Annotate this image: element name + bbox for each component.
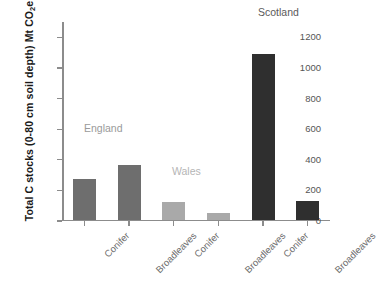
y-tick-mark bbox=[57, 67, 62, 68]
y-tick-label: 1000 bbox=[281, 63, 321, 73]
bar bbox=[207, 213, 230, 220]
bar bbox=[162, 202, 185, 219]
y-axis-title: Total C stocks (0-80 cm soil depth) Mt C… bbox=[23, 0, 35, 226]
y-tick-mark bbox=[57, 190, 62, 191]
bar bbox=[73, 179, 96, 219]
y-tick-label: 400 bbox=[281, 155, 321, 165]
group-label-scotland: Scotland bbox=[258, 6, 299, 18]
y-tick-mark bbox=[57, 220, 62, 221]
bar bbox=[118, 165, 141, 219]
x-tick-mark bbox=[128, 221, 129, 226]
y-tick-label: 800 bbox=[281, 94, 321, 104]
y-tick-label: 1200 bbox=[281, 32, 321, 42]
y-axis-title-suffix: e bbox=[23, 1, 35, 7]
y-tick-mark bbox=[57, 37, 62, 38]
bar bbox=[252, 54, 275, 220]
x-tick-mark bbox=[262, 221, 263, 226]
group-label-england: England bbox=[84, 122, 123, 134]
group-label-wales: Wales bbox=[172, 165, 201, 177]
x-tick-mark bbox=[218, 221, 219, 226]
y-tick-label: 200 bbox=[281, 185, 321, 195]
y-tick-mark bbox=[57, 129, 62, 130]
plot-area: 020040060080010001200 EnglandWalesScotla… bbox=[62, 22, 330, 221]
y-tick-mark bbox=[57, 159, 62, 160]
x-tick-label: Conifer bbox=[102, 230, 131, 259]
y-axis-title-subscript: 2 bbox=[28, 7, 37, 11]
y-axis-title-text: Total C stocks (0-80 cm soil depth) Mt C… bbox=[23, 11, 35, 221]
x-tick-mark bbox=[307, 221, 308, 226]
y-tick-label: 600 bbox=[281, 124, 321, 134]
y-axis-line bbox=[62, 22, 64, 221]
x-tick-label: Broadleaves bbox=[332, 230, 377, 275]
y-tick-mark bbox=[57, 98, 62, 99]
x-tick-label: Broadleaves bbox=[153, 230, 198, 275]
x-tick-mark bbox=[173, 221, 174, 226]
x-tick-mark bbox=[84, 221, 85, 226]
bar bbox=[296, 201, 319, 219]
x-axis-labels: ConiferBroadleavesConiferBroadleavesConi… bbox=[62, 230, 338, 285]
